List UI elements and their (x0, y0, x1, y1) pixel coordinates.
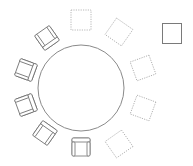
empty-seat[interactable] (130, 95, 156, 121)
empty-seat-placeholder-icon (130, 55, 156, 81)
armchair-icon (14, 58, 37, 81)
armchair-icon (72, 138, 90, 156)
occupied-seat[interactable] (32, 120, 57, 145)
armchair-icon (32, 120, 57, 145)
armchair-icon (34, 25, 59, 50)
empty-seat[interactable] (71, 10, 91, 30)
seating-plan-canvas (0, 0, 193, 166)
round-table[interactable] (38, 45, 124, 131)
empty-seat-placeholder-icon (130, 95, 156, 121)
empty-seat[interactable] (130, 55, 156, 81)
seating-diagram (0, 0, 193, 166)
empty-seat[interactable] (105, 18, 133, 46)
occupied-seat[interactable] (14, 58, 37, 81)
empty-seat-placeholder-icon (71, 10, 91, 30)
spare-seat[interactable] (163, 24, 182, 44)
armchair-icon (14, 93, 37, 116)
occupied-seat[interactable] (34, 25, 59, 50)
occupied-seat[interactable] (14, 93, 37, 116)
empty-seat-placeholder-icon (105, 18, 133, 46)
empty-seat-placeholder-icon (105, 130, 133, 158)
occupied-seat[interactable] (72, 138, 90, 156)
empty-seat[interactable] (105, 130, 133, 158)
